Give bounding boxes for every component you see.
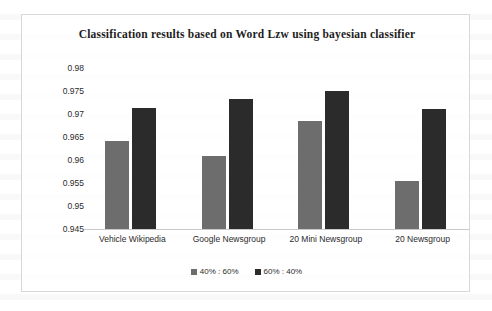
bar-series2 [229,99,253,229]
bar-series1 [395,181,419,229]
x-axis-category-label: 20 Mini Newsgroup [278,234,375,244]
legend-item[interactable]: 60% : 40% [255,267,303,276]
bar-series1 [298,121,322,229]
x-axis-category-label: Google Newsgroup [181,234,278,244]
bar-series2 [325,91,349,229]
legend-item[interactable]: 40% : 60% [191,267,239,276]
x-axis-category-label: Vehicle Wikipedia [84,234,181,244]
legend-swatch-icon [191,269,197,275]
y-axis-tick-label: 0.98 [38,63,84,73]
plot-area: 0.980.9750.970.9650.960.9550.950.945 Veh… [22,15,471,293]
y-axis-tick-label: 0.975 [38,86,84,96]
y-axis-tick-label: 0.95 [38,201,84,211]
y-axis-tick-label: 0.97 [38,109,84,119]
y-axis: 0.980.9750.970.9650.960.9550.950.945 [32,15,84,293]
legend-label: 40% : 60% [200,267,239,276]
y-axis-tick-label: 0.96 [38,155,84,165]
bar-series1 [105,141,129,229]
bar-series2 [132,108,156,229]
legend-swatch-icon [255,269,261,275]
y-axis-tick-label: 0.945 [38,224,84,234]
bars-layer: Vehicle WikipediaGoogle Newsgroup20 Mini… [84,15,471,293]
chart-container: Classification results based on Word Lzw… [21,14,470,292]
y-axis-tick-label: 0.955 [38,178,84,188]
y-axis-tick-label: 0.965 [38,132,84,142]
bar-series2 [422,109,446,229]
legend-label: 60% : 40% [264,267,303,276]
bar-series1 [202,156,226,229]
chart-legend: 40% : 60%60% : 40% [22,267,471,276]
x-axis-category-label: 20 Newsgroup [374,234,471,244]
